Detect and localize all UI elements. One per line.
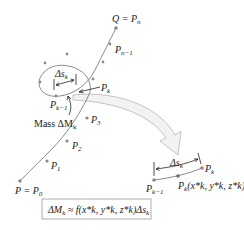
p1-label: P1 [50,160,61,173]
point-p0 [18,179,22,183]
pk-label: Pk [100,82,111,95]
detail-delta-s-label: Δsk [169,157,184,170]
curve-points [18,26,118,183]
point-loop-6 [102,61,105,64]
detail-pk-label: Pk [204,163,215,176]
line-integral-mass-diagram: Δsk Pk Pk−1 Mass ΔMk P3 P2 P1 P = P0 Q =… [0,0,244,230]
detail-point-pk-minus-1 [152,178,156,182]
mass-label: Mass ΔMk [34,118,77,131]
detail-point-pstar [176,174,180,178]
detail-point-pk [200,166,204,170]
point-pn1 [109,43,112,46]
point-loop-1 [39,81,42,84]
magnify-arrow-icon [73,94,181,155]
detail-pstar-label: Pk(x*k, y*k, z*k) [177,180,244,193]
pn-minus-1-label: Pn−1 [114,44,133,57]
p2-label: P2 [71,140,82,153]
formula-box: ΔMk ≈ f(x*k, y*k, z*k)Δsk [42,199,151,219]
point-p2 [65,139,68,142]
main-curve [20,28,116,181]
p0-label: P = P0 [14,185,43,198]
point-p3 [85,116,88,119]
point-loop-2 [44,62,47,65]
p3-label: P3 [90,114,101,127]
mass-pointer [67,96,71,115]
pk-minus-1-label: Pk−1 [49,99,67,112]
detail-pk-minus-1-label: Pk−1 [145,183,163,196]
point-loop-4 [55,95,58,98]
point-p1 [45,159,48,162]
point-loop-5 [92,78,95,81]
q-pn-label: Q = Pn [112,13,141,26]
delta-s-label: Δsk [54,68,69,81]
point-pn [114,26,118,30]
point-loop-3 [66,53,69,56]
